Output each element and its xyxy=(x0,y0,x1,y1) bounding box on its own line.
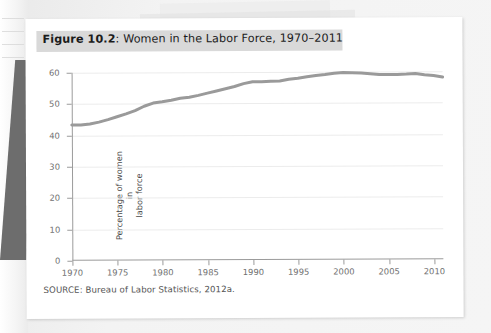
x-tick-label-1995: 1995 xyxy=(288,267,309,277)
figure-card: Figure 10.2: Women in the Labor Force, 1… xyxy=(25,17,463,319)
x-tick-label-1980: 1980 xyxy=(152,267,173,277)
figure-screenshot: Figure 10.2: Women in the Labor Force, 1… xyxy=(0,0,491,333)
x-tick-2010 xyxy=(434,259,435,264)
data-series-line xyxy=(72,71,444,261)
x-tick-label-2010: 2010 xyxy=(424,266,445,276)
x-tick-1970 xyxy=(72,261,73,266)
x-tick-label-1970: 1970 xyxy=(62,268,83,278)
y-tick-label-20: 20 xyxy=(49,193,60,203)
x-tick-2005 xyxy=(389,259,390,264)
x-tick-label-2005: 2005 xyxy=(378,266,399,276)
y-tick-label-50: 50 xyxy=(49,99,60,109)
x-tick-label-1990: 1990 xyxy=(243,267,264,277)
x-tick-1975 xyxy=(118,261,119,266)
x-tick-label-1985: 1985 xyxy=(197,267,218,277)
x-tick-label-2000: 2000 xyxy=(333,267,354,277)
x-tick-label-1975: 1975 xyxy=(107,268,128,278)
y-tick-label-40: 40 xyxy=(49,131,60,141)
x-tick-1990 xyxy=(253,260,254,265)
y-tick-label-30: 30 xyxy=(49,162,60,172)
figure-title: Figure 10.2: Women in the Labor Force, 1… xyxy=(42,32,343,46)
x-tick-1980 xyxy=(163,260,164,265)
figure-title-caption: Women in the Labor Force, 1970–2011 xyxy=(119,32,343,46)
x-tick-1995 xyxy=(299,260,300,265)
y-tick-label-10: 10 xyxy=(50,225,61,235)
figure-number: Figure 10.2 xyxy=(42,33,115,46)
chart-plot-area: Percentage of women in labor force 60 50… xyxy=(72,71,444,261)
x-tick-1985 xyxy=(208,260,209,265)
y-tick-label-60: 60 xyxy=(49,68,60,78)
y-tick-label-0: 0 xyxy=(55,256,60,266)
figure-source: SOURCE: Bureau of Labor Statistics, 2012… xyxy=(44,284,235,295)
x-tick-2000 xyxy=(344,260,345,265)
